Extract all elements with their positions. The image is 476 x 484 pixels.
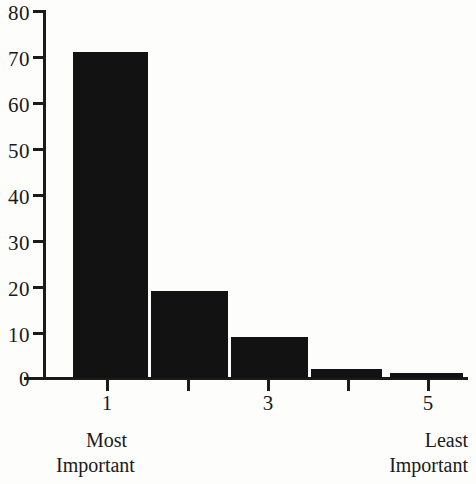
- y-axis-tick-label-10: 10: [0, 325, 30, 346]
- y-axis-tick-label-60-wrap: 60: [0, 95, 30, 116]
- bar-rank-1: [73, 52, 148, 378]
- x-axis-tick-mark-3: [267, 379, 270, 391]
- x-axis-tick-label-3: 3: [248, 392, 288, 414]
- x-axis-tick-mark-1: [106, 379, 109, 391]
- bar-rank-3: [231, 337, 308, 378]
- bar-rank-4: [311, 369, 382, 378]
- y-axis-tick-label-50-wrap: 50: [0, 141, 30, 162]
- y-axis-tick-label-40: 40: [0, 187, 30, 208]
- y-axis-tick-label-0: 0: [0, 369, 30, 390]
- y-axis-tick-label-20-wrap: 20: [0, 279, 30, 300]
- x-axis-tick-mark-5: [427, 379, 430, 391]
- x-axis-tick-mark-2: [187, 379, 190, 391]
- bar-rank-5: [390, 373, 463, 378]
- x-axis-tick-label-1: 1: [87, 392, 127, 414]
- caption-important-right: Important: [389, 453, 468, 478]
- x-axis-tick-label-5: 5: [408, 392, 448, 414]
- caption-important-left: Important: [56, 453, 135, 478]
- x-axis-caption-least-important: Least Important: [389, 428, 468, 478]
- caption-least: Least: [389, 428, 468, 453]
- y-axis-tick-label-80-wrap: 80: [0, 3, 30, 24]
- y-axis-tick-label-0-wrap: 0: [0, 369, 30, 390]
- caption-most: Most: [56, 428, 135, 453]
- y-axis-tick-label-50: 50: [0, 141, 30, 162]
- y-axis-tick-label-30: 30: [0, 233, 30, 254]
- y-axis-tick-label-60: 60: [0, 95, 30, 116]
- y-axis-tick-label-70: 70: [0, 49, 30, 70]
- bar-chart-figure: 80 70 60 50 40 30 20 10 0 1 3: [0, 0, 476, 484]
- y-axis-line: [43, 10, 46, 379]
- y-axis-tick-label-10-wrap: 10: [0, 325, 30, 346]
- y-axis-tick-label-40-wrap: 40: [0, 187, 30, 208]
- y-axis-tick-label-70-wrap: 70: [0, 49, 30, 70]
- bar-rank-2: [151, 291, 228, 378]
- y-axis-tick-label-20: 20: [0, 279, 30, 300]
- x-axis-tick-mark-4: [347, 379, 350, 391]
- y-axis-tick-label-30-wrap: 30: [0, 233, 30, 254]
- y-axis-tick-label-80: 80: [0, 3, 30, 24]
- x-axis-caption-most-important: Most Important: [56, 428, 135, 478]
